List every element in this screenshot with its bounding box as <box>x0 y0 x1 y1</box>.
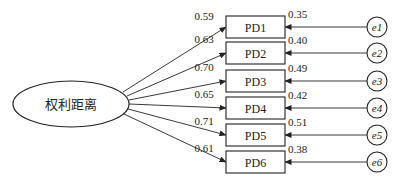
error-variance-value: 0.49 <box>288 62 308 74</box>
error-term-label: e3 <box>372 75 383 87</box>
error-variance-value: 0.35 <box>288 8 308 20</box>
error-term-label: e6 <box>372 156 383 168</box>
indicator-label: PD2 <box>245 47 266 61</box>
error-variance-value: 0.51 <box>288 116 307 128</box>
error-variance-value: 0.42 <box>288 89 307 101</box>
indicator-label: PD6 <box>245 156 266 170</box>
loading-value: 0.63 <box>194 33 214 45</box>
loading-arrow <box>129 104 226 108</box>
error-term-label: e5 <box>372 129 383 141</box>
loading-value: 0.70 <box>194 61 214 73</box>
indicator-label: PD4 <box>245 102 266 116</box>
loading-value: 0.61 <box>194 142 213 154</box>
loading-value: 0.65 <box>194 88 214 100</box>
loading-value: 0.59 <box>194 10 214 22</box>
error-variance-value: 0.40 <box>288 34 308 46</box>
error-term-label: e4 <box>372 102 383 114</box>
error-term-label: e1 <box>372 21 382 33</box>
loading-value: 0.71 <box>194 115 213 127</box>
error-variance-value: 0.38 <box>288 143 308 155</box>
indicator-label: PD1 <box>245 21 266 35</box>
error-term-label: e2 <box>372 47 383 59</box>
latent-variable-label: 权利距离 <box>45 97 97 112</box>
indicator-label: PD3 <box>245 75 266 89</box>
indicator-label: PD5 <box>245 129 266 143</box>
sem-diagram: 权利距离PD10.59e10.35PD20.63e20.40PD30.70e30… <box>0 0 399 188</box>
